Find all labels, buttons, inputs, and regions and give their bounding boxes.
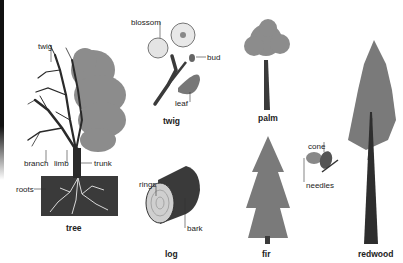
label-needles: needles bbox=[306, 181, 334, 190]
label-blossom: blossom bbox=[131, 18, 161, 27]
fir-illustration bbox=[246, 136, 290, 244]
label-bud: bud bbox=[207, 53, 220, 62]
label-limb: limb bbox=[54, 159, 69, 168]
redwood-illustration bbox=[348, 40, 396, 244]
caption-twig: twig bbox=[163, 116, 180, 126]
palm-illustration bbox=[244, 19, 290, 110]
caption-fir: fir bbox=[262, 249, 271, 259]
label-rings: rings bbox=[139, 180, 156, 189]
label-twig: twig bbox=[38, 42, 52, 51]
label-bark: bark bbox=[187, 224, 203, 233]
caption-log: log bbox=[165, 249, 178, 259]
label-branch: branch bbox=[24, 159, 48, 168]
label-trunk: trunk bbox=[94, 159, 112, 168]
label-roots: roots bbox=[16, 185, 34, 194]
log-illustration bbox=[146, 166, 200, 228]
label-leaf: leaf bbox=[175, 99, 188, 108]
label-cone: cone bbox=[308, 142, 325, 151]
caption-palm: palm bbox=[258, 113, 278, 123]
twig-illustration bbox=[148, 22, 206, 104]
caption-redwood: redwood bbox=[358, 249, 393, 259]
caption-tree: tree bbox=[66, 223, 82, 233]
tree-illustration bbox=[28, 45, 126, 216]
